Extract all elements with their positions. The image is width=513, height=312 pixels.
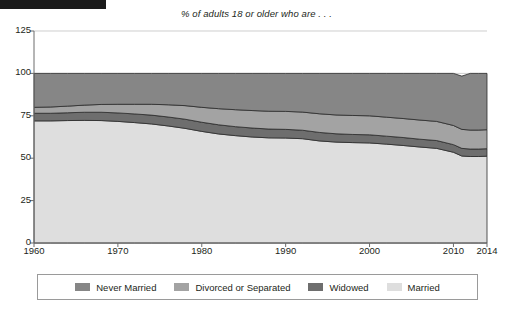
legend-item-widowed[interactable]: Widowed (308, 282, 368, 293)
x-axis-tick-labels: 1960197019801990200020102014 (0, 245, 513, 265)
x-tick-label-1960: 1960 (23, 245, 44, 256)
stacked-area-chart-svg (0, 0, 513, 268)
x-tick-label-1980: 1980 (191, 245, 212, 256)
y-tick-label-75: 75 (5, 109, 31, 120)
legend-label: Widowed (329, 282, 368, 293)
legend-label: Never Married (96, 282, 156, 293)
y-axis-tick-labels: 0255075100125 (0, 0, 31, 268)
x-tick-label-1990: 1990 (275, 245, 296, 256)
legend-item-married[interactable]: Married (387, 282, 440, 293)
y-tick-label-25: 25 (5, 194, 31, 205)
chart-plot-area: 0255075100125 19601970198019902000201020… (0, 0, 513, 268)
x-tick-label-1970: 1970 (107, 245, 128, 256)
x-tick-label-2010: 2010 (443, 245, 464, 256)
y-tick-label-100: 100 (5, 66, 31, 77)
legend-item-never-married[interactable]: Never Married (75, 282, 156, 293)
x-tick-label-2014: 2014 (476, 245, 497, 256)
legend-label: Married (408, 282, 440, 293)
y-tick-label-50: 50 (5, 151, 31, 162)
legend-item-divorced-or-separated[interactable]: Divorced or Separated (174, 282, 290, 293)
legend-swatch-icon (174, 283, 189, 291)
legend-swatch-icon (308, 283, 323, 291)
x-tick-label-2000: 2000 (359, 245, 380, 256)
legend-swatch-icon (75, 283, 90, 291)
legend-label: Divorced or Separated (195, 282, 290, 293)
legend-swatch-icon (387, 283, 402, 291)
chart-legend: Never MarriedDivorced or SeparatedWidowe… (37, 274, 478, 300)
y-tick-label-125: 125 (5, 24, 31, 35)
